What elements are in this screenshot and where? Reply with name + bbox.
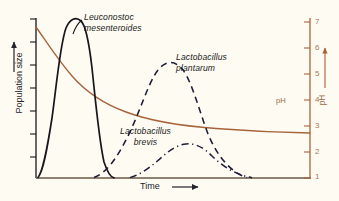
leuconostoc-label-line1: Leuconostoc (84, 12, 134, 22)
fermentation-succession-chart: 7 6 5 4 3 2 1 Leuconostoc mesenteroides … (0, 0, 339, 201)
y-axis-left-title: Population size (14, 28, 24, 138)
lactobacillus-plantarum-label: Lactobacillus plantarum (176, 52, 227, 73)
ph-tick-2: 2 (315, 147, 319, 156)
curve-lactobacillus-plantarum (94, 63, 247, 178)
brevis-label-line2: brevis (120, 137, 171, 148)
ph-tick-7: 7 (315, 17, 319, 26)
ph-tick-5: 5 (315, 69, 319, 78)
leuconostoc-mesenteroides-label: Leuconostoc mesenteroides (84, 12, 142, 33)
ph-tick-6: 6 (315, 43, 319, 52)
plantarum-label-line2: plantarum (176, 63, 215, 73)
curve-leuconostoc-mesenteroides (38, 19, 114, 178)
y-axis-left-ticks (30, 19, 36, 157)
leuconostoc-leader-line (73, 20, 82, 34)
leuconostoc-label-line2: mesenteroides (84, 23, 142, 33)
lactobacillus-brevis-label: Lactobacillus brevis (120, 126, 171, 147)
brevis-label-line1: Lactobacillus (120, 126, 171, 136)
ph-curve-label: pH (276, 96, 286, 105)
curve-lactobacillus-brevis (130, 144, 252, 178)
curve-ph (36, 27, 310, 133)
y-axis-right-title: pH (317, 88, 327, 112)
ph-tick-1: 1 (315, 172, 319, 181)
x-axis-title: Time (140, 181, 160, 191)
y-axis-right-ticks (304, 22, 310, 178)
chart-plot-area (0, 0, 339, 201)
ph-tick-3: 3 (315, 121, 319, 130)
plantarum-label-line1: Lactobacillus (176, 52, 227, 62)
